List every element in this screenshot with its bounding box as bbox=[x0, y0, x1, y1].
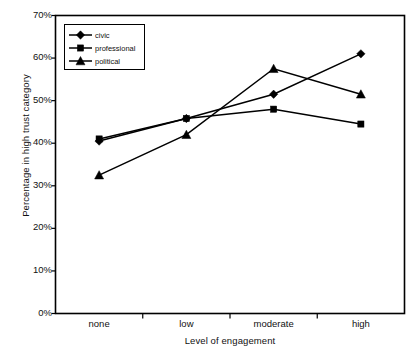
legend-label-civic: civic bbox=[95, 31, 110, 40]
data-point-professional-none bbox=[96, 136, 102, 142]
y-axis-tick-label: 40% bbox=[14, 137, 52, 147]
legend-marker-professional bbox=[77, 45, 83, 51]
y-axis-tick-label: 60% bbox=[14, 52, 52, 62]
data-point-civic-moderate bbox=[269, 90, 277, 98]
y-axis-tick-labels: 0%10%20%30%40%50%60%70% bbox=[12, 0, 52, 355]
x-axis-tick-label: none bbox=[89, 318, 110, 329]
legend-label-professional: professional bbox=[95, 44, 136, 53]
y-axis-tick-label: 20% bbox=[14, 222, 52, 232]
series-line-political bbox=[99, 69, 361, 175]
data-point-professional-low bbox=[183, 115, 189, 121]
x-axis-title: Level of engagement bbox=[55, 335, 405, 346]
data-point-professional-high bbox=[358, 121, 364, 127]
series-line-professional bbox=[99, 109, 361, 139]
chart-legend: civicprofessionalpolitical bbox=[65, 25, 145, 70]
data-point-civic-high bbox=[357, 50, 365, 58]
plot-area: civicprofessionalpolitical bbox=[0, 0, 416, 355]
legend-label-political: political bbox=[95, 57, 120, 66]
y-axis-tick-label: 10% bbox=[14, 265, 52, 275]
x-axis-tick-label: high bbox=[352, 318, 370, 329]
y-axis-tick-label: 30% bbox=[14, 180, 52, 190]
y-axis-tick-label: 70% bbox=[14, 10, 52, 20]
y-axis-tick-label: 0% bbox=[14, 308, 52, 318]
data-point-political-none bbox=[95, 171, 104, 179]
y-axis-tick-label: 50% bbox=[14, 95, 52, 105]
line-chart: Percentage in high trust category 0%10%2… bbox=[0, 0, 416, 355]
data-point-political-moderate bbox=[269, 64, 278, 72]
x-axis-tick-label: low bbox=[179, 318, 193, 329]
x-axis-tick-label: moderate bbox=[254, 318, 294, 329]
data-point-professional-moderate bbox=[271, 106, 277, 112]
